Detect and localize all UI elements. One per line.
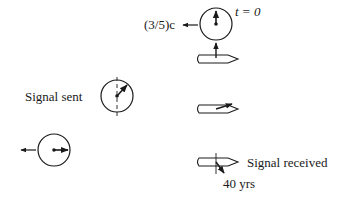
signal-sent-label: Signal sent bbox=[25, 89, 83, 104]
clock-signal-sent bbox=[101, 77, 133, 116]
signal-received-label: Signal received bbox=[247, 155, 328, 170]
ship-middle bbox=[198, 104, 239, 113]
time-zero-label: t = 0 bbox=[235, 4, 261, 19]
elapsed-label: 40 yrs bbox=[223, 176, 255, 191]
clock-hand-icon bbox=[117, 85, 127, 96]
clock-bottom-left bbox=[38, 134, 70, 166]
diagram-svg: (3/5)c t = 0 Signal sent Signal received… bbox=[0, 0, 347, 208]
ship-bottom bbox=[198, 153, 239, 174]
ship-clock-hand-icon bbox=[216, 162, 224, 173]
ship-top bbox=[198, 43, 239, 63]
ship-icon bbox=[198, 55, 239, 63]
speed-label: (3/5)c bbox=[144, 17, 175, 32]
clock-top bbox=[200, 8, 232, 40]
diagram-canvas: (3/5)c t = 0 Signal sent Signal received… bbox=[0, 0, 347, 208]
